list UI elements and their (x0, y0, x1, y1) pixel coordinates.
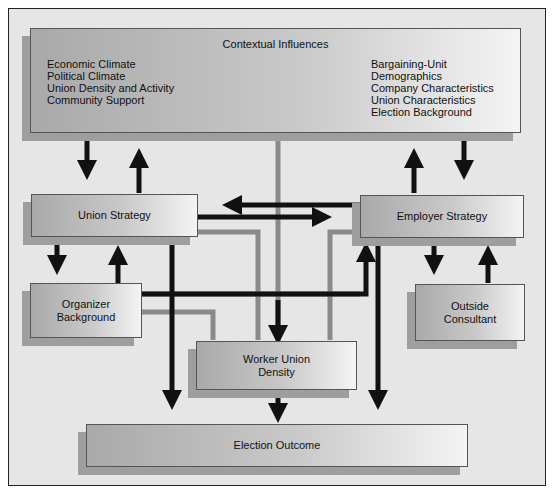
context-item: Political Climate (47, 70, 174, 82)
outside-consultant-box: Outside Consultant (415, 284, 525, 341)
organizer-background-label: Organizer (62, 298, 110, 311)
worker-union-density-label: Worker Union (243, 353, 310, 366)
context-item: Bargaining-Unit Demographics (371, 58, 520, 82)
contextual-influences-box: Contextual Influences Economic Climate P… (30, 28, 521, 133)
context-item: Community Support (47, 94, 174, 106)
context-item: Union Characteristics (371, 94, 520, 106)
organizer-background-box: Organizer Background (30, 283, 142, 338)
worker-union-density-label: Density (258, 366, 295, 379)
context-item: Economic Climate (47, 58, 174, 70)
employer-strategy-label: Employer Strategy (397, 210, 487, 223)
context-item: Company Characteristics (371, 82, 520, 94)
employer-strategy-box: Employer Strategy (360, 195, 524, 238)
contextual-influences-title: Contextual Influences (31, 38, 520, 51)
organizer-background-label: Background (57, 311, 116, 324)
union-strategy-label: Union Strategy (78, 209, 151, 222)
outside-consultant-label: Outside (451, 300, 489, 313)
context-item: Union Density and Activity (47, 82, 174, 94)
context-left-list: Economic Climate Political Climate Union… (47, 58, 174, 106)
context-right-list: Bargaining-Unit Demographics Company Cha… (371, 58, 520, 118)
worker-union-density-box: Worker Union Density (196, 341, 357, 390)
union-strategy-box: Union Strategy (31, 194, 198, 237)
election-outcome-label: Election Outcome (234, 439, 321, 452)
context-item: Election Background (371, 106, 520, 118)
outside-consultant-label: Consultant (444, 313, 497, 326)
election-outcome-box: Election Outcome (86, 424, 468, 467)
